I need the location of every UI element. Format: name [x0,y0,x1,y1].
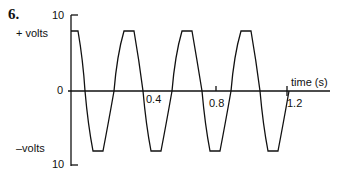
chart-plot [0,0,338,185]
